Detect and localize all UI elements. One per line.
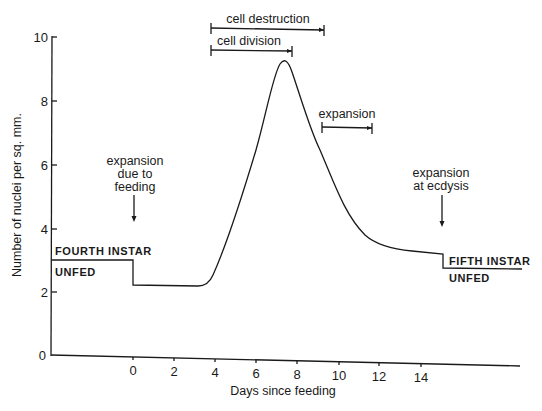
y-tick-label: 10 xyxy=(34,30,48,45)
x-tick-label: 8 xyxy=(293,367,300,382)
line-chart: 10 8 6 4 2 0 Number of nuclei per sq. mm… xyxy=(0,0,542,411)
svg-text:cell division: cell division xyxy=(217,34,281,48)
annotation-expansion-feeding: expansion due to feeding xyxy=(107,154,164,222)
svg-text:feeding: feeding xyxy=(114,180,155,194)
svg-text:at ecdysis: at ecdysis xyxy=(413,179,469,193)
y-axis-line xyxy=(51,36,52,356)
y-tick-label: 4 xyxy=(41,222,48,237)
svg-text:cell destruction: cell destruction xyxy=(226,12,309,26)
y-tick-label: 8 xyxy=(41,94,48,109)
x-axis: 0 2 4 6 8 10 12 14 Days since feeding xyxy=(51,355,520,398)
y-axis: 10 8 6 4 2 0 Number of nuclei per sq. mm… xyxy=(10,30,57,363)
x-axis-line xyxy=(51,355,520,366)
svg-text:due to: due to xyxy=(118,167,153,181)
x-tick-label: 14 xyxy=(414,370,428,385)
arrowhead-icon xyxy=(132,216,137,222)
fifth-unfed-label: UNFED xyxy=(449,272,490,284)
fourth-unfed-label: UNFED xyxy=(55,266,96,278)
svg-text:expansion: expansion xyxy=(413,166,470,180)
annotation-cell-destruction: cell destruction xyxy=(211,12,324,36)
x-axis-title: Days since feeding xyxy=(230,384,336,398)
fourth-instar-label: FOURTH INSTAR xyxy=(55,245,152,257)
x-tick-label: 2 xyxy=(170,364,177,379)
x-tick-label: 6 xyxy=(252,366,259,381)
x-tick-label: 12 xyxy=(372,369,386,384)
y-tick-label: 6 xyxy=(41,158,48,173)
y-tick-label: 0 xyxy=(39,348,46,363)
svg-text:expansion: expansion xyxy=(319,107,376,121)
x-tick-label: 4 xyxy=(211,365,218,380)
x-tick-label: 0 xyxy=(129,363,136,378)
annotation-expansion-ecdysis: expansion at ecdysis xyxy=(413,166,470,227)
annotation-cell-division: cell division xyxy=(211,34,292,57)
annotation-expansion: expansion xyxy=(319,107,376,134)
y-tick-label: 2 xyxy=(41,285,48,300)
fifth-instar-label: FIFTH INSTAR xyxy=(449,255,531,267)
y-axis-title: Number of nuclei per sq. mm. xyxy=(10,113,24,277)
arrowhead-icon xyxy=(440,221,445,227)
x-tick-label: 10 xyxy=(332,368,346,383)
svg-text:expansion: expansion xyxy=(107,154,164,168)
